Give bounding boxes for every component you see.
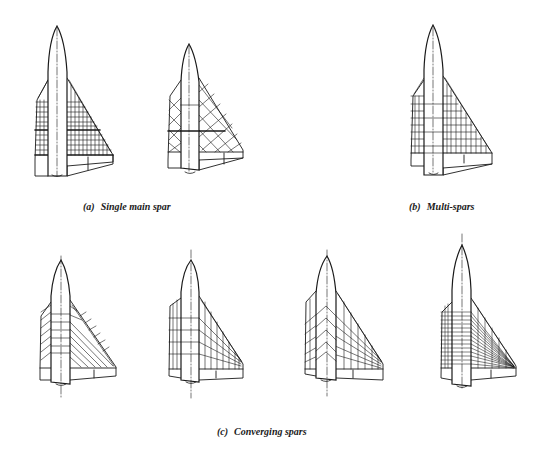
aircraft-c4-converging-dense [441, 234, 516, 388]
caption-c-tag: (c) [217, 426, 228, 437]
caption-a: (a)Single main spar [83, 201, 171, 212]
aircraft-a-single-spar-grid [35, 26, 113, 177]
caption-a-label: Single main spar [101, 201, 171, 212]
wing-structure-diagram [0, 0, 542, 465]
aircraft-a-single-spar-lattice [168, 44, 243, 174]
aircraft-c1-converging-diagonal [40, 256, 116, 398]
caption-b: (b)Multi-spars [409, 201, 474, 212]
aircraft-b-multi-spars [411, 25, 492, 175]
caption-c: (c)Converging spars [217, 426, 307, 437]
caption-a-tag: (a) [83, 201, 95, 212]
caption-b-tag: (b) [409, 201, 421, 212]
caption-b-label: Multi-spars [427, 201, 475, 212]
aircraft-c2-converging-grid [169, 250, 243, 398]
aircraft-c3-converging-chevron [305, 250, 383, 396]
caption-c-label: Converging spars [234, 426, 307, 437]
